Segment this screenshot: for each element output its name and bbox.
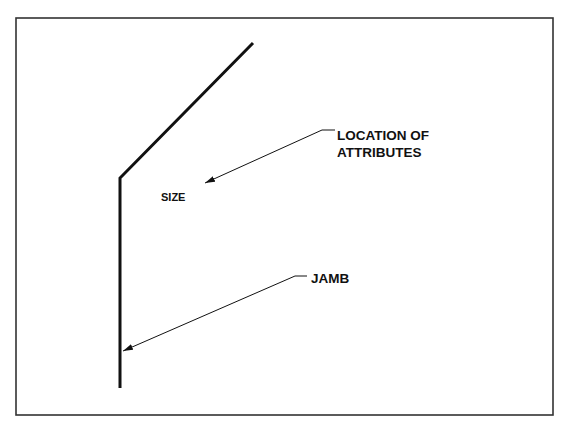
drawing-frame [16,18,553,415]
location-label-line1: LOCATION OF [337,128,429,143]
location-label-line2: ATTRIBUTES [337,145,422,160]
jamb-outline [120,43,253,388]
jamb-leader-arrow [123,276,307,351]
jamb-label: JAMB [311,271,350,286]
door-jamb-diagram: LOCATION OF ATTRIBUTES SIZE JAMB [0,0,565,428]
size-label: SIZE [161,191,185,203]
location-leader-arrow [205,130,335,183]
